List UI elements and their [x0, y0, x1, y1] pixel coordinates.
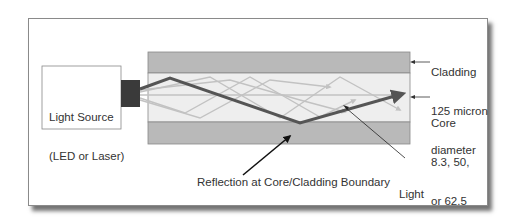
cladding-top: [148, 52, 410, 73]
reflection-label: Reflection at Core/Cladding Boundary: [197, 176, 390, 189]
light-source-label-line1: Light Source: [49, 111, 124, 124]
core-pointer-tip: [410, 95, 415, 99]
core-label-line2: 8.3, 50,: [431, 156, 476, 169]
cladding-label-line1: Cladding: [431, 66, 488, 79]
light-source-label-line2: (LED or Laser): [49, 150, 124, 163]
core-label-line3: or 62.5: [431, 195, 476, 208]
core-label: Core 8.3, 50, or 62.5 micron diameter: [431, 91, 476, 223]
core-label-line1: Core: [431, 117, 476, 130]
cladding-bottom: [148, 122, 410, 144]
light-source-label: Light Source (LED or Laser): [49, 85, 124, 176]
cladding-pointer-tip: [410, 60, 415, 64]
light-ray-label-line1: Light: [399, 188, 424, 201]
light-ray-label: Light Ray: [399, 162, 424, 223]
